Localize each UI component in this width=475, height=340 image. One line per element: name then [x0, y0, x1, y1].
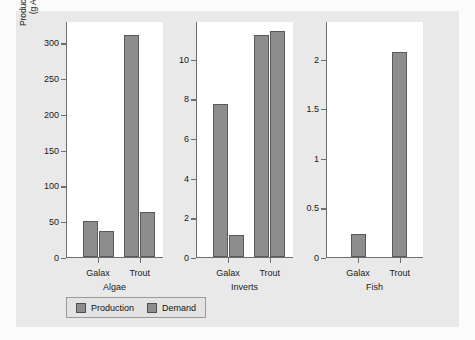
y-tick-label: 2 — [184, 213, 189, 223]
y-tick-label: 10 — [179, 55, 189, 65]
x-tick-mark — [228, 258, 229, 263]
bar-algae-trout-demand — [140, 212, 155, 257]
panel-inverts: 0246810GalaxTroutInverts — [196, 22, 293, 258]
y-axis-fish — [326, 22, 327, 258]
y-tick-mark — [61, 258, 66, 259]
y-tick-label: 0 — [314, 253, 319, 263]
panel-algae: 050100150200250300GalaxTroutAlgae — [66, 22, 163, 258]
y-axis-title-line2: (g AFD-1 m-2) — [28, 0, 38, 60]
figure-canvas: Production/demand (g AFD-1 m-2) 05010015… — [0, 0, 475, 340]
x-tick-label-trout: Trout — [129, 268, 150, 278]
bar-algae-galax-demand — [99, 231, 114, 257]
x-tick-label-galax: Galax — [86, 268, 110, 278]
y-tick-mark — [321, 60, 326, 61]
bar-inverts-galax-production — [213, 104, 228, 257]
x-tick-label-trout: Trout — [389, 268, 410, 278]
x-tick-label-galax: Galax — [346, 268, 370, 278]
panel-title-fish: Fish — [326, 282, 423, 292]
bar-inverts-trout-production — [254, 35, 269, 257]
y-axis-units-prefix: (g AFD — [28, 0, 38, 14]
panel-fish: 00.511.52GalaxTroutFish — [326, 22, 423, 258]
y-tick-mark — [191, 99, 196, 100]
y-axis-title-line1: Production/demand — [18, 0, 28, 60]
y-tick-label: 0 — [54, 253, 59, 263]
y-tick-label: 6 — [184, 134, 189, 144]
panel-title-algae: Algae — [66, 282, 163, 292]
x-tick-mark — [400, 258, 401, 263]
y-tick-label: 300 — [44, 38, 59, 48]
y-axis-inverts — [196, 22, 197, 258]
y-tick-label: 1 — [314, 154, 319, 164]
y-tick-label: 8 — [184, 94, 189, 104]
x-tick-mark — [358, 258, 359, 263]
legend-item-demand[interactable]: Demand — [147, 303, 196, 313]
y-tick-label: 100 — [44, 181, 59, 191]
y-axis-algae — [66, 22, 67, 258]
bar-fish-galax-production — [351, 234, 366, 257]
y-tick-mark — [61, 222, 66, 223]
y-tick-label: 50 — [49, 217, 59, 227]
y-tick-mark — [191, 258, 196, 259]
y-tick-mark — [191, 179, 196, 180]
bar-inverts-galax-demand — [229, 235, 244, 257]
bar-algae-galax-production — [83, 221, 98, 257]
legend-label-demand: Demand — [162, 303, 196, 313]
y-tick-mark — [191, 218, 196, 219]
bar-fish-trout-production — [392, 52, 407, 257]
y-tick-label: 250 — [44, 74, 59, 84]
x-tick-mark — [270, 258, 271, 263]
y-tick-mark — [321, 109, 326, 110]
y-tick-label: 0 — [184, 253, 189, 263]
y-tick-mark — [191, 60, 196, 61]
y-tick-label: 4 — [184, 174, 189, 184]
legend: Production Demand — [66, 297, 206, 318]
y-tick-mark — [321, 208, 326, 209]
y-tick-mark — [321, 159, 326, 160]
y-tick-label: 0.5 — [306, 203, 319, 213]
y-tick-mark — [61, 79, 66, 80]
y-tick-label: 200 — [44, 110, 59, 120]
x-tick-mark — [140, 258, 141, 263]
legend-swatch-demand — [147, 303, 157, 313]
bar-algae-trout-production — [124, 35, 139, 257]
y-tick-mark — [61, 151, 66, 152]
x-tick-label-trout: Trout — [259, 268, 280, 278]
y-tick-label: 150 — [44, 146, 59, 156]
y-tick-label: 2 — [314, 55, 319, 65]
legend-item-production[interactable]: Production — [76, 303, 134, 313]
x-tick-mark — [98, 258, 99, 263]
y-tick-label: 1.5 — [306, 104, 319, 114]
legend-swatch-production — [76, 303, 86, 313]
x-tick-label-galax: Galax — [216, 268, 240, 278]
bar-inverts-trout-demand — [270, 31, 285, 257]
y-tick-mark — [61, 186, 66, 187]
x-axis-fish — [326, 257, 423, 258]
panel-title-inverts: Inverts — [196, 282, 293, 292]
legend-label-production: Production — [91, 303, 134, 313]
y-tick-mark — [191, 139, 196, 140]
y-tick-mark — [61, 43, 66, 44]
y-tick-mark — [61, 115, 66, 116]
y-axis-title: Production/demand (g AFD-1 m-2) — [18, 0, 40, 60]
y-tick-mark — [321, 258, 326, 259]
